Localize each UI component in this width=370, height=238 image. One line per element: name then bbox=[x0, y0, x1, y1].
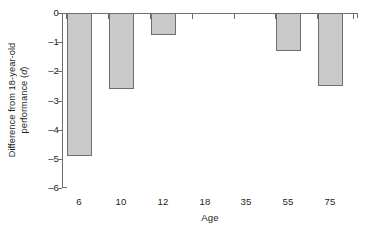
y-axis-tick bbox=[57, 42, 62, 43]
x-axis-right-endcap bbox=[357, 13, 358, 18]
y-axis-tick bbox=[57, 101, 62, 102]
plot-area bbox=[62, 13, 358, 188]
x-tick-label: 35 bbox=[226, 196, 266, 207]
x-axis-tick bbox=[234, 14, 235, 19]
bar-age-12 bbox=[151, 13, 176, 35]
y-axis-title-effect-size-symbol: d bbox=[20, 70, 30, 75]
bar-age-6 bbox=[67, 13, 92, 156]
x-tick-label: 10 bbox=[101, 196, 141, 207]
y-axis-tick bbox=[57, 130, 62, 131]
y-tick-label: –4 bbox=[35, 125, 59, 135]
x-axis-title: Age bbox=[62, 212, 358, 223]
y-axis-bottom-endcap bbox=[62, 187, 67, 188]
bar-age-55 bbox=[276, 13, 301, 51]
y-axis-line bbox=[62, 13, 63, 188]
y-tick-label: –6 bbox=[35, 183, 59, 193]
y-tick-label: –1 bbox=[35, 37, 59, 47]
y-axis-title-line2-pre: performance ( bbox=[20, 75, 30, 134]
y-axis-tick-labels: 0 –1 –2 –3 –4 –5 –6 bbox=[33, 0, 59, 238]
y-axis-title-line1: Difference from 18-year-old bbox=[7, 43, 18, 158]
zero-baseline-axis bbox=[62, 13, 358, 14]
y-tick-label: –2 bbox=[35, 66, 59, 76]
y-axis-tick bbox=[57, 188, 62, 189]
bar-chart: Difference from 18-year-old performance … bbox=[0, 0, 370, 238]
y-axis-tick bbox=[57, 71, 62, 72]
y-axis-tick bbox=[57, 159, 62, 160]
x-axis-tick bbox=[353, 14, 354, 19]
x-tick-label: 12 bbox=[143, 196, 183, 207]
y-axis-title-line2: performance (d) bbox=[20, 43, 31, 158]
x-tick-label: 6 bbox=[59, 196, 99, 207]
y-tick-label: –5 bbox=[35, 154, 59, 164]
y-axis-tick bbox=[57, 13, 62, 14]
y-tick-label: 0 bbox=[35, 8, 59, 18]
bar-age-75 bbox=[318, 13, 343, 86]
y-tick-label: –3 bbox=[35, 96, 59, 106]
y-axis-title-line2-post: ) bbox=[20, 66, 30, 69]
x-axis-tick bbox=[192, 14, 193, 19]
bar-age-10 bbox=[109, 13, 134, 89]
x-tick-label: 75 bbox=[310, 196, 350, 207]
x-tick-label: 55 bbox=[268, 196, 308, 207]
x-tick-label: 18 bbox=[185, 196, 225, 207]
